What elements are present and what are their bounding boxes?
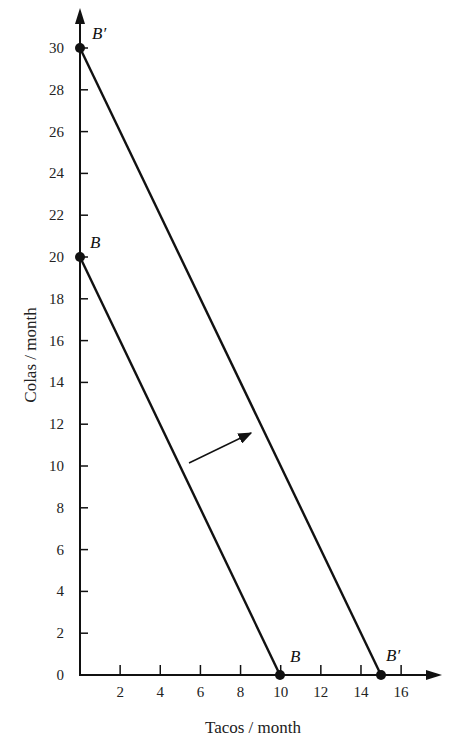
y-tick-label: 4 (57, 583, 65, 599)
x-tick-label: 14 (353, 684, 369, 700)
budget-line-b-prime (80, 48, 381, 675)
x-tick-label: 4 (157, 684, 165, 700)
y-tick-label: 16 (49, 333, 65, 349)
x-tick-label: 2 (116, 684, 124, 700)
y-tick-label: 28 (49, 82, 64, 98)
y-axis-title: Colas / month (21, 307, 40, 403)
y-axis-arrow-icon (75, 8, 85, 24)
y-tick-label: 26 (49, 124, 65, 140)
point-b-top (75, 252, 85, 262)
origin-label: 0 (57, 667, 65, 683)
label-b-prime-top: B′ (92, 24, 106, 43)
point-b-prime-bottom (376, 670, 386, 680)
y-tick-label: 24 (49, 165, 65, 181)
x-tick-label: 16 (394, 684, 410, 700)
point-b-bottom (275, 670, 285, 680)
x-tick-label: 10 (273, 684, 288, 700)
y-ticks (80, 48, 88, 633)
x-tick-labels: 246810121416 (116, 684, 409, 700)
y-tick-label: 22 (49, 207, 64, 223)
y-tick-label: 8 (57, 500, 65, 516)
point-b-prime-top (75, 43, 85, 53)
y-tick-label: 10 (49, 458, 64, 474)
x-tick-label: 12 (313, 684, 328, 700)
budget-line-b (80, 257, 280, 675)
x-ticks (120, 665, 401, 675)
label-b-top: B (90, 233, 101, 252)
x-tick-label: 6 (197, 684, 205, 700)
x-axis-title: Tacos / month (205, 718, 302, 737)
y-tick-label: 20 (49, 249, 64, 265)
budget-line-chart: 24681012141618202224262830 246810121416 … (0, 0, 455, 754)
x-tick-label: 8 (237, 684, 245, 700)
label-b-prime-bottom: B′ (386, 646, 400, 665)
shift-arrow-icon (189, 433, 251, 463)
y-tick-label: 6 (57, 542, 65, 558)
y-tick-label: 18 (49, 291, 64, 307)
y-tick-label: 12 (49, 416, 64, 432)
y-tick-label: 14 (49, 374, 65, 390)
x-axis-arrow-icon (426, 670, 442, 680)
y-tick-label: 2 (57, 625, 65, 641)
label-b-bottom: B (290, 647, 301, 666)
y-tick-label: 30 (49, 40, 64, 56)
y-tick-labels: 24681012141618202224262830 (49, 40, 65, 641)
